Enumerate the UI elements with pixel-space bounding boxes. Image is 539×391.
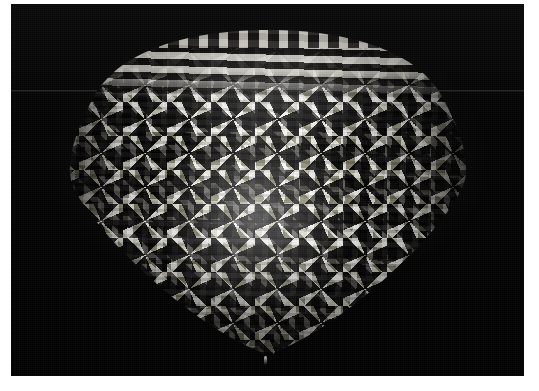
image-caption: Black-and-white photograph of a cone-sha… <box>0 0 1 1</box>
basket-top-selvedge <box>79 30 457 48</box>
photo-image-area <box>11 4 524 376</box>
conical-woven-basket <box>65 30 471 360</box>
basket-bottom-tip <box>264 356 267 365</box>
photographic-print: Black-and-white photograph of a cone-sha… <box>0 0 539 391</box>
basket-silhouette <box>65 30 471 360</box>
